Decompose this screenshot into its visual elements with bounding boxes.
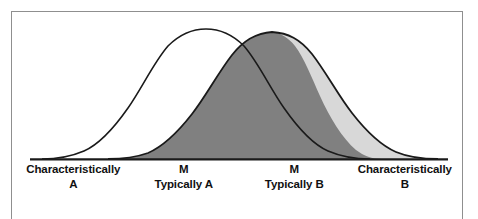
axis-label-characteristically-b: Characteristically B [350,162,461,191]
figure-root: Characteristically A M Typically A M Typ… [0,0,478,219]
axis-label-line2: Typically B [239,177,350,192]
axis-label-line1: M [129,162,240,177]
axis-label-line1: M [239,162,350,177]
axis-label-line2: Typically A [129,177,240,192]
axis-label-characteristically-a: Characteristically A [18,162,129,191]
axis-label-line2: A [18,177,129,192]
axis-label-typically-a: M Typically A [129,162,240,191]
axis-label-line2: B [350,177,461,192]
axis-label-row: Characteristically A M Typically A M Typ… [18,162,460,206]
axis-label-line1: Characteristically [18,162,129,177]
overlap-fill-region [108,32,382,159]
axis-label-line1: Characteristically [350,162,461,177]
axis-label-typically-b: M Typically B [239,162,350,191]
